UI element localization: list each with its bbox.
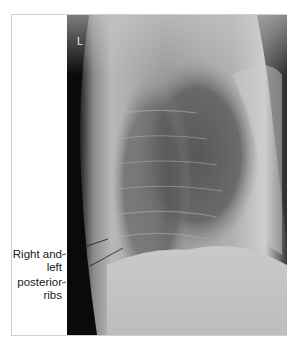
label-line: ribs <box>17 289 62 302</box>
chest-xray-image: L <box>67 15 287 335</box>
side-marker: L <box>77 35 83 47</box>
label-line: posterior <box>17 276 62 289</box>
label-line: Right and <box>13 248 62 261</box>
right-left-label: Right and left <box>13 248 62 274</box>
posterior-ribs-label: posterior ribs <box>17 276 62 302</box>
label-line: left <box>13 261 62 274</box>
